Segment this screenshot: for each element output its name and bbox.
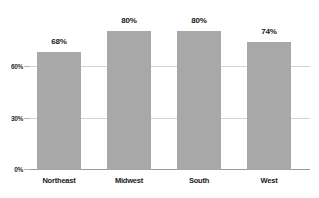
- y-axis-tick-label-60: 60%: [11, 63, 23, 70]
- bar-west[interactable]: [247, 42, 291, 170]
- bar-value-label-midwest: 80%: [107, 16, 151, 25]
- bar-series: 68% 80% 80% 74%: [30, 14, 310, 170]
- bar-northeast[interactable]: [37, 52, 81, 170]
- x-axis-label-west: West: [234, 176, 304, 185]
- x-axis-label-midwest: Midwest: [94, 176, 164, 185]
- bar-value-label-west: 74%: [247, 27, 291, 36]
- bar-value-label-northeast: 68%: [37, 37, 81, 46]
- y-axis-tick-label-30: 30%: [11, 115, 23, 122]
- bar-value-label-south: 80%: [177, 16, 221, 25]
- x-axis-labels: Northeast Midwest South West: [30, 176, 310, 190]
- bar-midwest[interactable]: [107, 31, 151, 170]
- x-axis-label-northeast: Northeast: [24, 176, 94, 185]
- x-axis-label-south: South: [164, 176, 234, 185]
- plot-area: 60% 30% 0% 68% 80% 80%: [30, 14, 310, 170]
- bar-chart: 60% 30% 0% 68% 80% 80%: [0, 0, 319, 198]
- y-axis-tick-label-0: 0%: [14, 166, 23, 173]
- bar-south[interactable]: [177, 31, 221, 170]
